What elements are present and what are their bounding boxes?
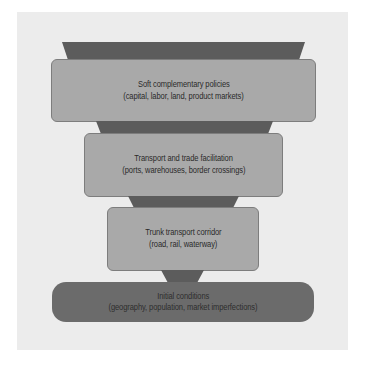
layer-title: Trunk transport corridor <box>145 227 221 239</box>
layer-subtitle: (geography, population, market imperfect… <box>109 302 258 313</box>
layer-box-trunk-corridor: Trunk transport corridor (road, rail, wa… <box>107 207 259 271</box>
layer-subtitle: (road, rail, waterway) <box>149 239 217 251</box>
layer-box-trade-facilitation: Transport and trade facilitation (ports,… <box>84 133 283 197</box>
layer-title: Initial conditions <box>157 291 209 302</box>
layer-base-initial-conditions: Initial conditions (geography, populatio… <box>52 282 314 322</box>
funnel-top-trapezoid <box>62 42 305 60</box>
layer-box-soft-policies: Soft complementary policies (capital, la… <box>51 59 316 122</box>
layer-subtitle: (ports, warehouses, border crossings) <box>122 165 245 177</box>
layer-subtitle: (capital, labor, land, product markets) <box>123 91 243 103</box>
diagram-canvas: Soft complementary policies (capital, la… <box>0 0 366 368</box>
layer-title: Soft complementary policies <box>138 79 230 91</box>
layer-title: Transport and trade facilitation <box>134 153 233 165</box>
